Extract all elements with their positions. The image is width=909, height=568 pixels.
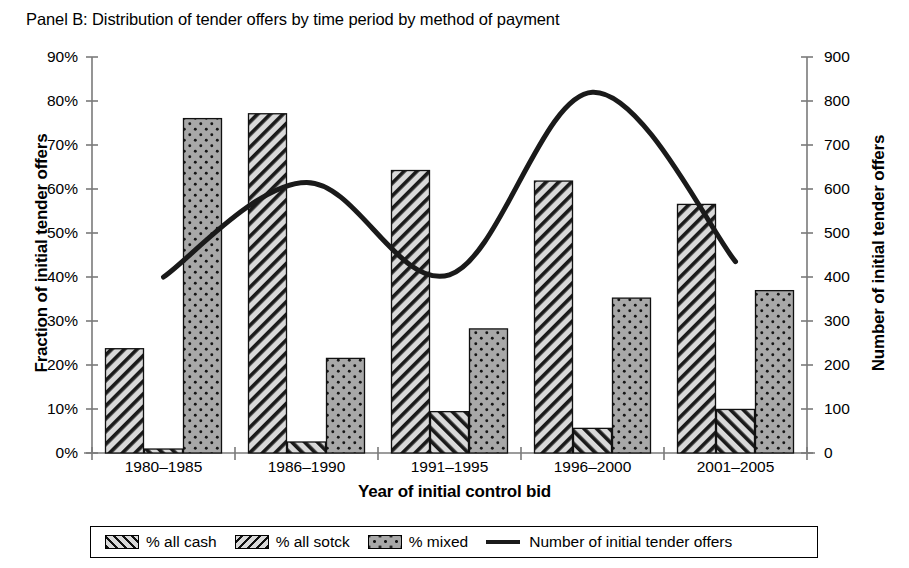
plot-area [0, 0, 909, 568]
bar-all-sotck [574, 428, 612, 453]
legend-item[interactable]: Number of initial tender offers [486, 533, 732, 551]
bar-mixed [470, 329, 508, 453]
backward-hatch-swatch-icon [235, 535, 269, 549]
legend-item-label: % all sotck [276, 533, 350, 551]
line-swatch-icon [486, 540, 520, 544]
bar-all-sotck [717, 409, 755, 453]
bar-mixed [613, 298, 651, 453]
chart-figure: Panel B: Distribution of tender offers b… [0, 0, 909, 568]
bar-all-sotck [431, 412, 469, 453]
chart-legend: % all cash% all sotck% mixedNumber of in… [90, 526, 818, 558]
bar-all-cash [392, 171, 430, 453]
bar-all-sotck [145, 449, 183, 453]
legend-item-label: Number of initial tender offers [529, 533, 732, 551]
legend-item-label: % mixed [409, 533, 468, 551]
dotted-swatch-icon [368, 535, 402, 549]
legend-item-label: % all cash [146, 533, 217, 551]
bar-all-cash [678, 204, 716, 453]
bar-all-cash [535, 181, 573, 453]
legend-item[interactable]: % mixed [368, 533, 468, 551]
bar-all-sotck [288, 442, 326, 453]
legend-item[interactable]: % all cash [105, 533, 217, 551]
bar-all-cash [249, 114, 287, 453]
bar-mixed [327, 358, 365, 453]
bar-mixed [756, 291, 794, 453]
legend-item[interactable]: % all sotck [235, 533, 350, 551]
bar-mixed [184, 119, 222, 453]
bar-all-cash [106, 349, 144, 453]
forward-hatch-swatch-icon [105, 535, 139, 549]
bars-layer [106, 114, 794, 453]
